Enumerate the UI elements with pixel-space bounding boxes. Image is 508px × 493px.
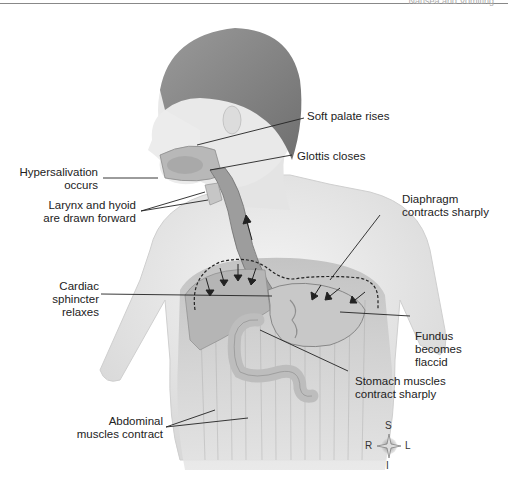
label-line: Larynx and hyoid: [43, 199, 136, 212]
label-line: muscles contract: [77, 428, 163, 441]
label-line: contract sharply: [355, 388, 446, 401]
orientation-superior: S: [385, 420, 392, 431]
label-hypersalivation: Hypersalivation occurs: [19, 166, 98, 192]
label-line: Diaphragm: [402, 193, 489, 206]
label-stomach-muscles: Stomach muscles contract sharply: [355, 375, 446, 401]
label-line: relaxes: [52, 306, 99, 319]
label-line: Soft palate rises: [307, 110, 389, 123]
label-fundus: Fundus becomes flaccid: [415, 330, 462, 369]
label-line: Hypersalivation: [19, 166, 98, 179]
label-line: contracts sharply: [402, 206, 489, 219]
label-line: Glottis closes: [297, 150, 365, 163]
label-line: Abdominal: [77, 415, 163, 428]
label-diaphragm: Diaphragm contracts sharply: [402, 193, 489, 219]
label-larynx-hyoid: Larynx and hyoid are drawn forward: [43, 199, 136, 225]
label-line: occurs: [19, 179, 98, 192]
ear: [223, 106, 241, 134]
label-soft-palate: Soft palate rises: [307, 110, 389, 123]
tongue: [167, 156, 203, 174]
orientation-inferior: I: [386, 460, 389, 471]
label-line: Fundus: [415, 330, 462, 343]
label-line: becomes: [415, 343, 462, 356]
label-glottis: Glottis closes: [297, 150, 365, 163]
label-line: flaccid: [415, 356, 462, 369]
label-cardiac-sphincter: Cardiac sphincter relaxes: [52, 280, 99, 319]
label-line: Stomach muscles: [355, 375, 446, 388]
label-abdominal-muscles: Abdominal muscles contract: [77, 415, 163, 441]
label-line: Cardiac: [52, 280, 99, 293]
orientation-right: R: [365, 440, 372, 451]
orientation-left: L: [405, 440, 411, 451]
label-line: sphincter: [52, 293, 99, 306]
label-line: are drawn forward: [43, 212, 136, 225]
